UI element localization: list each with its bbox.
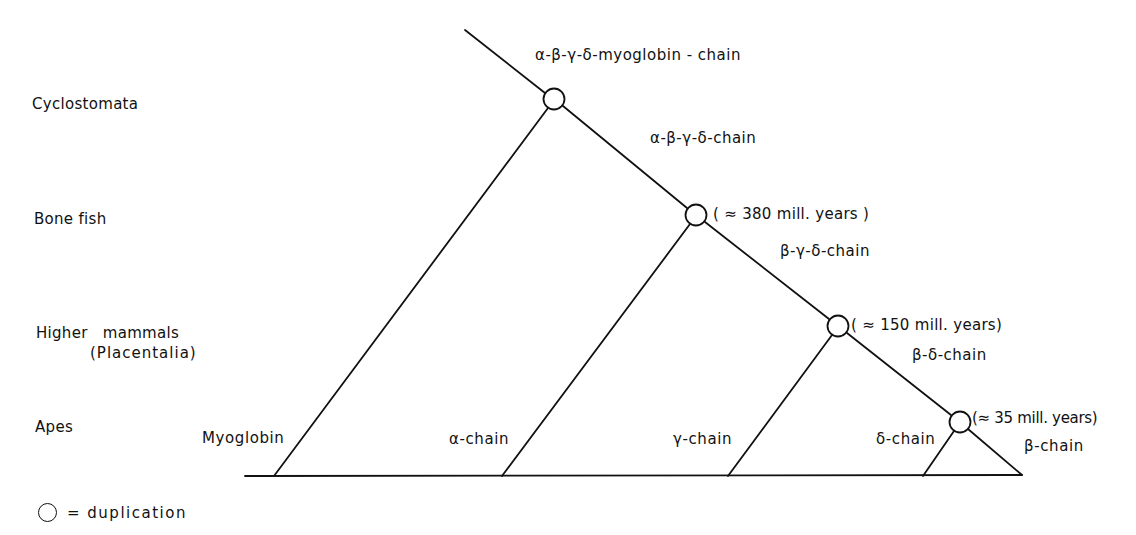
baseline [245,475,1022,476]
duplication-age-4: (≈ 35 mill. years) [972,409,1097,427]
duplication-node-1 [544,89,565,110]
duplication-circle-icon [38,503,57,522]
taxon-apes: Apes [35,418,73,436]
ancestral-chain-4: β-δ-chain [912,346,987,364]
duplication-age-2: ( ≈ 380 mill. years ) [713,205,869,223]
leaf-gamma-chain: γ-chain [673,430,732,448]
trunk-segment-5 [968,429,1022,475]
leaf-alpha-chain: α-chain [449,430,509,448]
duplication-node-4 [950,412,971,433]
trunk-segment-3 [705,222,829,319]
duplication-age-3: ( ≈ 150 mill. years) [851,316,1002,334]
ancestral-chain-2: α-β-γ-δ-chain [650,129,756,147]
duplication-node-3 [828,316,849,337]
branch-alpha [502,224,690,476]
duplication-node-2 [686,205,707,226]
trunk-segment-1 [465,30,545,93]
leaf-myoglobin: Myoglobin [202,429,284,447]
branch-myoglobin [274,108,548,476]
legend-text: = duplication [67,504,187,522]
phylogeny-tree [0,0,1136,535]
leaf-delta-chain: δ-chain [876,430,935,448]
trunk-segment-2 [563,106,687,208]
taxon-cyclostomata: Cyclostomata [32,95,138,113]
branch-gamma [728,335,832,476]
taxon-bone-fish: Bone fish [34,210,106,228]
ancestral-chain-1: α-β-γ-δ-myoglobin - chain [535,46,741,64]
taxon-placentalia: (Placentalia) [90,344,197,362]
leaf-beta-chain: β-chain [1024,437,1084,455]
taxon-higher-mammals: Higher mammals [36,324,179,342]
legend: = duplication [38,503,187,522]
ancestral-chain-3: β-γ-δ-chain [780,242,870,260]
